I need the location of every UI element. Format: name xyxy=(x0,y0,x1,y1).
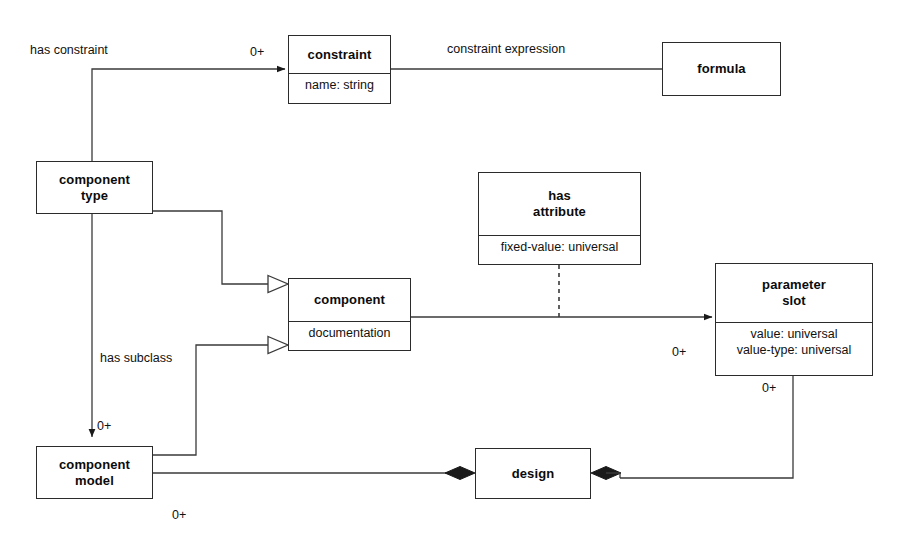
node-formula[interactable]: formula xyxy=(662,42,781,96)
edge-component-model-to-design xyxy=(153,467,475,480)
attribute-row: documentation xyxy=(308,325,390,341)
node-has-attribute[interactable]: hasattribute fixed-value: universal xyxy=(478,172,641,265)
edge-component-type-to-component xyxy=(153,211,288,293)
node-component-model-title: componentmodel xyxy=(37,447,152,498)
edge-label-has-constraint: has constraint xyxy=(30,43,108,57)
generalization-triangle-icon xyxy=(268,337,288,354)
node-has-attribute-attributes: fixed-value: universal xyxy=(479,235,640,258)
edge-label-has-subclass: has subclass xyxy=(100,351,172,365)
node-component-attributes: documentation xyxy=(289,321,410,344)
attribute-row: name: string xyxy=(305,77,374,93)
edge-component-model-to-component xyxy=(153,337,288,456)
node-component-title: component xyxy=(289,279,410,321)
multiplicity-constraint: 0+ xyxy=(250,45,264,59)
edge-label-constraint-expression: constraint expression xyxy=(447,42,565,56)
attribute-row: value-type: universal xyxy=(737,342,852,358)
diagram-canvas: constraint name: string formula componen… xyxy=(0,0,904,549)
attribute-row: value: universal xyxy=(751,326,838,342)
node-parameter-slot-title: parameterslot xyxy=(716,264,872,322)
attribute-row: fixed-value: universal xyxy=(501,239,618,255)
node-design[interactable]: design xyxy=(475,448,591,499)
multiplicity-component-model-out: 0+ xyxy=(172,508,186,522)
node-component[interactable]: component documentation xyxy=(288,278,411,351)
node-parameter-slot[interactable]: parameterslot value: universal value-typ… xyxy=(715,263,873,376)
node-has-attribute-title: hasattribute xyxy=(479,173,640,235)
node-component-model[interactable]: componentmodel xyxy=(36,446,153,499)
node-constraint-attributes: name: string xyxy=(289,73,390,96)
node-component-type[interactable]: componenttype xyxy=(36,161,153,214)
multiplicity-parameter-slot-in: 0+ xyxy=(672,345,686,359)
generalization-triangle-icon xyxy=(268,276,288,293)
aggregation-diamond-icon xyxy=(445,467,475,480)
node-constraint[interactable]: constraint name: string xyxy=(288,35,391,104)
node-formula-title: formula xyxy=(663,43,780,95)
node-constraint-title: constraint xyxy=(289,36,390,73)
multiplicity-parameter-slot-out: 0+ xyxy=(762,381,776,395)
node-design-title: design xyxy=(476,449,590,498)
node-component-type-title: componenttype xyxy=(37,162,152,213)
multiplicity-component-model-in: 0+ xyxy=(97,419,111,433)
edge-component-type-to-constraint xyxy=(92,69,285,161)
node-parameter-slot-attributes: value: universal value-type: universal xyxy=(716,322,872,361)
